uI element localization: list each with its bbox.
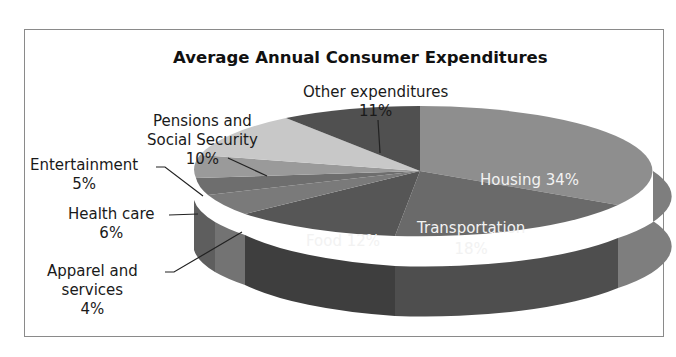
label-health-value: 6% — [68, 224, 155, 243]
label-housing-text: Housing 34% — [480, 170, 579, 191]
label-entertainment-value: 5% — [30, 175, 138, 194]
label-transportation-value: 18% — [417, 239, 525, 260]
label-transportation: Transportation 18% — [417, 218, 525, 260]
label-apparel-name-2: services — [47, 281, 138, 300]
label-apparel: Apparel and services 4% — [47, 262, 138, 319]
label-other: Other expenditures 11% — [303, 83, 448, 121]
label-other-name: Other expenditures — [303, 83, 448, 102]
label-housing: Housing 34% — [480, 170, 579, 191]
label-pensions: Pensions and Social Security 10% — [147, 112, 258, 169]
label-apparel-value: 4% — [47, 300, 138, 319]
label-apparel-name-1: Apparel and — [47, 262, 138, 281]
label-entertainment: Entertainment 5% — [30, 156, 138, 194]
label-health-name: Health care — [68, 205, 155, 224]
pie-side-health — [194, 200, 215, 272]
label-pensions-name-2: Social Security — [147, 131, 258, 150]
pie-side-apparel — [215, 222, 245, 285]
label-food-text: Food 12% — [306, 231, 380, 252]
label-entertainment-name: Entertainment — [30, 156, 138, 175]
callout-line-health — [169, 214, 198, 215]
label-transportation-name: Transportation — [417, 218, 525, 239]
label-pensions-name-1: Pensions and — [147, 112, 258, 131]
label-pensions-value: 10% — [147, 150, 258, 169]
label-other-value: 11% — [303, 102, 448, 121]
label-food: Food 12% — [306, 231, 380, 252]
label-health: Health care 6% — [68, 205, 155, 243]
